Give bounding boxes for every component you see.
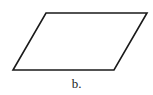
figure-caption: b. bbox=[0, 76, 153, 92]
parallelogram-shape bbox=[13, 13, 147, 70]
